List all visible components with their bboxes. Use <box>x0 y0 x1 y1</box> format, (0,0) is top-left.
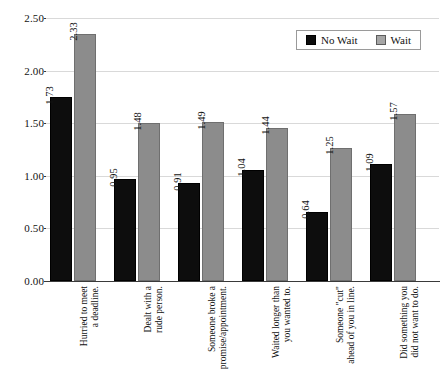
y-axis: 0.000.501.001.502.002.50 <box>0 0 44 389</box>
legend-swatch-wait <box>376 35 386 45</box>
bar-value-label: 1.09 <box>371 153 382 171</box>
bar-value-label: 1.48 <box>139 112 150 130</box>
bar-value-label: 2.33 <box>75 23 86 41</box>
legend-swatch-no-wait <box>306 35 316 45</box>
y-axis-tick-label: 1.50 <box>4 118 44 129</box>
y-axis-tick-label: 1.00 <box>4 171 44 182</box>
bar-value-label: 1.49 <box>203 111 214 129</box>
x-axis-line <box>44 281 440 282</box>
bar-wait: 1.49 <box>202 122 224 281</box>
bar-value-label: 1.25 <box>331 136 342 154</box>
x-axis-category-label: Hurried to meeta deadline. <box>79 286 93 386</box>
bar-chart: 0.000.501.001.502.002.50 1.732.330.951.4… <box>0 0 443 389</box>
bar-value-label: 1.44 <box>267 116 278 134</box>
legend-label-wait: Wait <box>391 35 412 46</box>
legend-item-no-wait: No Wait <box>306 35 358 46</box>
bar-wait: 1.48 <box>138 123 160 281</box>
y-axis-tick-label: 0.00 <box>4 276 44 287</box>
bar-wait: 1.25 <box>330 148 352 282</box>
bar-wait: 1.44 <box>266 128 288 281</box>
bar-wait: 1.57 <box>394 114 416 281</box>
legend-item-wait: Wait <box>376 35 412 46</box>
x-axis-category-label: Waited longer thanyou wanted to. <box>271 286 285 386</box>
bar-group: 1.091.57 <box>370 18 416 281</box>
bar-no-wait: 0.64 <box>306 212 328 281</box>
bar-group: 1.041.44 <box>242 18 288 281</box>
bar-no-wait: 1.73 <box>50 97 72 281</box>
bar-group: 0.641.25 <box>306 18 352 281</box>
x-axis-category-label: Someone "cut"ahead of you in line. <box>335 286 349 386</box>
y-axis-tick-label: 2.00 <box>4 66 44 77</box>
bar-value-label: 0.91 <box>179 172 190 190</box>
bar-group: 0.911.49 <box>178 18 224 281</box>
bar-no-wait: 1.04 <box>242 170 264 281</box>
bar-no-wait: 0.95 <box>114 179 136 281</box>
y-axis-tick-label: 0.50 <box>4 223 44 234</box>
bar-wait: 2.33 <box>74 34 96 281</box>
x-axis-category-label: Did something youdid not want to do. <box>399 286 413 386</box>
bar-value-label: 1.57 <box>395 103 406 121</box>
bar-value-label: 0.95 <box>115 168 126 186</box>
bar-value-label: 1.73 <box>51 86 62 104</box>
legend-label-no-wait: No Wait <box>321 35 358 46</box>
bar-value-label: 0.64 <box>307 201 318 219</box>
bar-no-wait: 1.09 <box>370 164 392 281</box>
x-axis-category-label: Dealt with arude person. <box>143 286 157 386</box>
bar-group: 0.951.48 <box>114 18 160 281</box>
bar-value-label: 1.04 <box>243 158 254 176</box>
x-axis-category-label: Someone broke apromise/appointment. <box>207 286 221 386</box>
chart-legend: No Wait Wait <box>296 30 421 50</box>
y-axis-tick-label: 2.50 <box>4 13 44 24</box>
bar-no-wait: 0.91 <box>178 183 200 281</box>
plot-area: 1.732.330.951.480.911.491.041.440.641.25… <box>46 18 439 281</box>
bar-group: 1.732.33 <box>50 18 96 281</box>
